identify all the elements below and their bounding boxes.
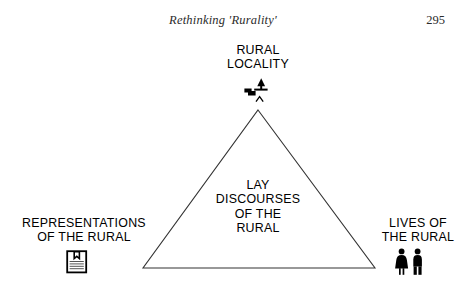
female-figure-glyph [395, 249, 408, 275]
apex-label: RURAL LOCALITY [178, 43, 338, 71]
book-icon [66, 250, 88, 278]
right-label-line1: LIVES OF [348, 216, 470, 230]
male-figure-glyph [413, 249, 422, 275]
rural-triangle-diagram: RURAL LOCALITY LAY DISCOURSES OF THE RUR… [0, 0, 470, 289]
people-icon [393, 248, 427, 280]
centre-label-line1: LAY [178, 178, 338, 192]
rural-scene-icon [241, 77, 271, 106]
centre-label: LAY DISCOURSES OF THE RURAL [178, 178, 338, 236]
centre-label-line4: RURAL [178, 221, 338, 235]
left-label-line1: REPRESENTATIONS [4, 216, 164, 230]
apex-label-line1: RURAL [178, 43, 338, 57]
centre-label-line2: DISCOURSES [178, 192, 338, 206]
left-label: REPRESENTATIONS OF THE RURAL [4, 216, 164, 244]
right-label-line2: THE RURAL [348, 230, 470, 244]
apex-label-line2: LOCALITY [178, 57, 338, 71]
page-canvas: Rethinking 'Rurality' 295 RURAL LOCALITY [0, 0, 470, 289]
centre-label-line3: OF THE [178, 207, 338, 221]
left-label-line2: OF THE RURAL [4, 230, 164, 244]
right-label: LIVES OF THE RURAL [348, 216, 470, 244]
